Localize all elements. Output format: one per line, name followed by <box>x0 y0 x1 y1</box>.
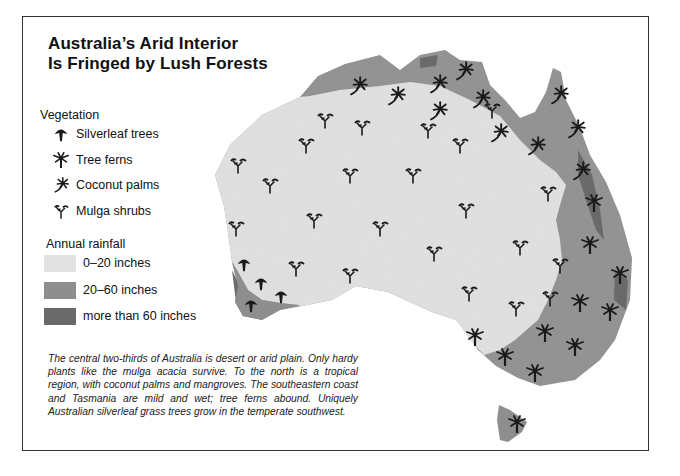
tasmania <box>497 405 527 442</box>
legend-item-silverleaf: Silverleaf trees <box>52 124 159 144</box>
swatch-60-plus <box>44 308 76 325</box>
legend-label: Coconut palms <box>76 178 159 192</box>
tree-fern-icon <box>52 151 70 169</box>
vegetation-legend-heading: Vegetation <box>40 108 99 122</box>
silverleaf-tree-icon <box>52 125 70 143</box>
legend-item-rain-low: 0–20 inches <box>44 254 150 272</box>
legend-item-rain-mid: 20–60 inches <box>44 281 157 299</box>
map-caption: The central two-thirds of Australia is d… <box>48 352 358 418</box>
title-line-2: Is Fringed by Lush Forests <box>48 54 268 74</box>
legend-item-mulga: Mulga shrubs <box>52 201 151 221</box>
swatch-20-60 <box>44 282 76 299</box>
legend-label: more than 60 inches <box>83 309 196 323</box>
caption-text: The central two-thirds of Australia is d… <box>48 352 358 418</box>
legend-label: Silverleaf trees <box>76 127 159 141</box>
swatch-0-20 <box>44 255 76 272</box>
map-title: Australia’s Arid Interior Is Fringed by … <box>48 34 268 74</box>
legend-item-tree-fern: Tree ferns <box>52 150 133 170</box>
legend-label: Mulga shrubs <box>76 204 151 218</box>
legend-label: Tree ferns <box>76 153 133 167</box>
legend-item-rain-high: more than 60 inches <box>44 307 196 325</box>
rainfall-legend-heading: Annual rainfall <box>46 237 125 251</box>
mulga-shrub-icon <box>52 202 70 220</box>
legend-label: 0–20 inches <box>83 256 150 270</box>
legend-label: 20–60 inches <box>83 283 157 297</box>
title-line-1: Australia’s Arid Interior <box>48 34 268 54</box>
coconut-palm-icon <box>52 176 70 194</box>
legend-item-coconut-palm: Coconut palms <box>52 175 159 195</box>
